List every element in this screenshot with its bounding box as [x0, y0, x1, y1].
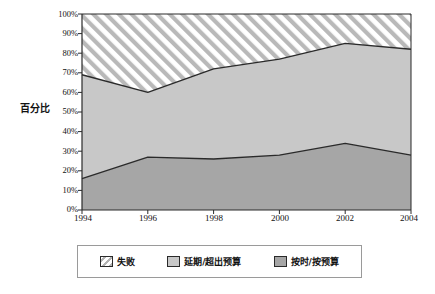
- x-tick-label: 2002: [325, 213, 365, 224]
- legend-label-failed: 失败: [117, 257, 135, 267]
- x-axis-tick-labels: 1994 1996 1998 2000 2002 2004: [0, 213, 435, 227]
- legend-item-delayed[interactable]: 延期/超出预算: [167, 256, 241, 267]
- x-tick-label: 2000: [260, 213, 300, 224]
- x-tick-label: 1998: [194, 213, 234, 224]
- legend-item-failed[interactable]: 失败: [100, 256, 135, 267]
- legend-label-ontime: 按时/按预算: [291, 257, 339, 267]
- legend-item-ontime[interactable]: 按时/按预算: [274, 256, 339, 267]
- x-tick-label: 1994: [63, 213, 103, 224]
- chart-legend: 失败 延期/超出预算 按时/按预算: [77, 245, 362, 278]
- legend-label-delayed: 延期/超出预算: [184, 257, 241, 267]
- stacked-area-chart: 百分比 100% 90% 80% 70% 60% 50% 40% 30% 20%…: [0, 0, 435, 294]
- x-tick-label: 1996: [128, 213, 168, 224]
- legend-swatch-delayed-icon: [167, 256, 180, 267]
- x-tick-label: 2004: [389, 213, 429, 224]
- legend-swatch-ontime-icon: [274, 256, 287, 267]
- legend-swatch-hatch-icon: [100, 256, 113, 267]
- chart-legend-items: 失败 延期/超出预算 按时/按预算: [78, 246, 361, 277]
